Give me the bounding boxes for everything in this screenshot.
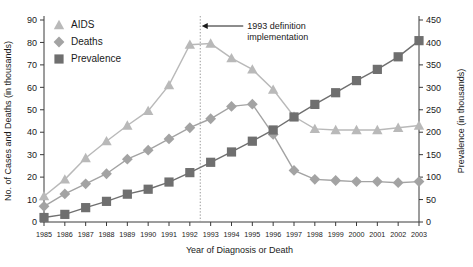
- series-marker-deaths: [143, 145, 154, 156]
- series-marker-deaths: [289, 165, 300, 176]
- x-axis-tick-label: 1992: [182, 230, 198, 239]
- series-marker-prevalence: [185, 168, 194, 177]
- legend-marker-deaths: [54, 37, 65, 48]
- series-marker-deaths: [330, 175, 341, 186]
- x-axis-tick-label: 1995: [244, 230, 260, 239]
- series-marker-aids: [205, 38, 215, 47]
- y-axis-left-tick-label: 60: [27, 83, 37, 93]
- series-marker-aids: [226, 53, 236, 62]
- x-axis-tick-label: 1999: [328, 230, 344, 239]
- series-marker-aids: [122, 120, 132, 129]
- y-axis-right-tick-label: 300: [426, 83, 441, 93]
- annotation-text-line1: 1993 definition: [247, 21, 306, 31]
- y-axis-right-tick-label: 100: [426, 172, 441, 182]
- y-axis-left-tick-label: 0: [32, 217, 37, 227]
- series-marker-aids: [247, 64, 257, 73]
- series-marker-prevalence: [352, 76, 361, 85]
- series-marker-aids: [414, 120, 424, 129]
- series-marker-deaths: [309, 174, 320, 185]
- y-axis-right-tick-label: 400: [426, 38, 441, 48]
- x-axis-tick-label: 1993: [203, 230, 219, 239]
- y-axis-right-tick-label: 50: [426, 195, 436, 205]
- x-axis-tick-label: 1997: [286, 230, 302, 239]
- series-marker-deaths: [122, 154, 133, 165]
- series-line-prevalence: [44, 41, 419, 218]
- series-marker-prevalence: [81, 203, 90, 212]
- series-marker-prevalence: [60, 210, 69, 219]
- series-marker-prevalence: [289, 112, 298, 121]
- series-marker-deaths: [372, 176, 383, 187]
- y-axis-left-tick-label: 30: [27, 150, 37, 160]
- chart-container: 0102030405060708090 05010015020025030035…: [0, 0, 473, 267]
- legend-item-prevalence: Prevalence: [54, 53, 121, 64]
- series-marker-prevalence: [123, 190, 132, 199]
- y-axis-right-title: Prevalence (in thousands): [456, 69, 466, 174]
- x-axis-ticks: 1985198619871988198919901991199219931994…: [36, 222, 427, 239]
- x-axis-tick-label: 1986: [57, 230, 73, 239]
- series-marker-prevalence: [331, 88, 340, 97]
- y-axis-right-tick-label: 0: [426, 217, 431, 227]
- x-axis-tick-label: 2003: [411, 230, 427, 239]
- series-marker-prevalence: [144, 185, 153, 194]
- series-marker-aids: [310, 124, 320, 133]
- series-marker-deaths: [414, 176, 425, 187]
- series-marker-deaths: [247, 99, 258, 110]
- y-axis-right-tick-label: 250: [426, 105, 441, 115]
- series-marker-prevalence: [373, 65, 382, 74]
- legend-marker-aids: [54, 20, 64, 29]
- legend-label-deaths: Deaths: [71, 36, 103, 47]
- legend-label-aids: AIDS: [71, 19, 95, 30]
- y-axis-left-tick-label: 50: [27, 105, 37, 115]
- y-axis-left-tick-label: 70: [27, 60, 37, 70]
- y-axis-left-title: No. of Cases and Deaths (in thousands): [3, 41, 13, 201]
- series-line-aids: [44, 44, 419, 197]
- series-marker-prevalence: [310, 100, 319, 109]
- y-axis-left-tick-label: 10: [27, 195, 37, 205]
- annotation-arrowhead-icon: [202, 23, 208, 29]
- series-marker-deaths: [226, 101, 237, 112]
- x-axis-tick-label: 1996: [265, 230, 281, 239]
- legend-label-prevalence: Prevalence: [71, 53, 121, 64]
- series-marker-deaths: [39, 201, 50, 212]
- legend-item-aids: AIDS: [54, 19, 95, 30]
- series-marker-prevalence: [39, 213, 48, 222]
- series-marker-deaths: [205, 113, 216, 124]
- x-axis-tick-label: 2001: [369, 230, 385, 239]
- annotation-text-line2: implementation: [247, 32, 308, 42]
- y-axis-right-tick-label: 450: [426, 15, 441, 25]
- x-axis-tick-label: 1985: [36, 230, 52, 239]
- series-marker-aids: [101, 136, 111, 145]
- y-axis-right-tick-label: 150: [426, 150, 441, 160]
- series-marker-deaths: [393, 177, 404, 188]
- y-axis-left-tick-label: 40: [27, 127, 37, 137]
- y-axis-left-tick-label: 20: [27, 172, 37, 182]
- x-axis-tick-label: 1988: [99, 230, 115, 239]
- series-marker-deaths: [184, 122, 195, 133]
- legend-marker-prevalence: [54, 54, 63, 63]
- legend-item-deaths: Deaths: [54, 36, 103, 47]
- y-axis-left-ticks: 0102030405060708090: [27, 15, 44, 227]
- y-axis-right-tick-label: 350: [426, 60, 441, 70]
- series-marker-prevalence: [269, 125, 278, 134]
- series-marker-deaths: [59, 189, 70, 200]
- series-marker-deaths: [164, 134, 175, 145]
- y-axis-left-tick-label: 80: [27, 38, 37, 48]
- series-marker-deaths: [101, 168, 112, 179]
- x-axis-tick-label: 1989: [119, 230, 135, 239]
- series-marker-prevalence: [414, 36, 423, 45]
- x-axis-tick-label: 1991: [161, 230, 177, 239]
- series-marker-prevalence: [164, 177, 173, 186]
- chart-legend: AIDSDeathsPrevalence: [54, 19, 122, 64]
- y-axis-left-tick-label: 90: [27, 15, 37, 25]
- y-axis-right-ticks: 050100150200250300350400450: [419, 15, 441, 227]
- series-marker-deaths: [80, 178, 91, 189]
- x-axis-tick-label: 1994: [224, 230, 240, 239]
- x-axis-tick-label: 2002: [390, 230, 406, 239]
- x-axis-tick-label: 1990: [140, 230, 156, 239]
- chart-plot: 0102030405060708090 05010015020025030035…: [0, 0, 473, 267]
- series-marker-prevalence: [248, 137, 257, 146]
- x-axis-tick-label: 1987: [78, 230, 94, 239]
- y-axis-right-tick-label: 200: [426, 127, 441, 137]
- x-axis-title: Year of Diagnosis or Death: [186, 245, 293, 255]
- series-marker-prevalence: [394, 52, 403, 61]
